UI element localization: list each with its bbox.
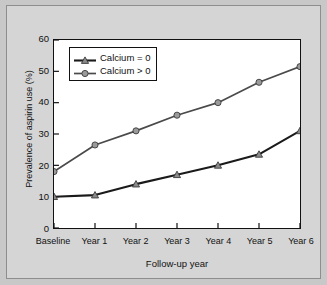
legend-item-1: Calcium = 0 (74, 51, 150, 64)
y-tick-label: 30 (27, 129, 49, 139)
x-tick-label: Year 4 (205, 237, 231, 246)
x-tick-label: Baseline (36, 237, 71, 246)
y-tick-label: 40 (27, 97, 49, 107)
series-line (54, 131, 300, 197)
x-tick-label: Year 3 (164, 237, 190, 246)
chart-legend: Calcium = 0Calcium > 0 (69, 47, 157, 81)
x-tick-label: Year 1 (81, 237, 107, 246)
legend-label: Calcium = 0 (100, 53, 150, 63)
y-tick-label: 60 (27, 34, 49, 44)
data-point-marker (296, 127, 300, 133)
data-point-marker (54, 169, 57, 175)
figure-frame: Prevalence of aspirin use (%) 0102030405… (6, 5, 321, 279)
data-point-marker (92, 142, 98, 148)
data-point-marker (174, 112, 180, 118)
data-point-marker (82, 70, 88, 76)
x-axis-title: Follow-up year (53, 258, 301, 269)
legend-item-2: Calcium > 0 (74, 64, 150, 77)
data-point-marker (215, 100, 221, 106)
y-tick-label: 10 (27, 192, 49, 202)
data-point-marker (133, 128, 139, 134)
y-tick-label: 50 (27, 66, 49, 76)
y-tick-label: 0 (27, 224, 49, 234)
line-chart: Prevalence of aspirin use (%) 0102030405… (7, 6, 320, 278)
x-tick-label: Year 2 (123, 237, 149, 246)
legend-circle-marker-icon (74, 65, 96, 76)
data-point-marker (297, 64, 300, 70)
legend-triangle-marker-icon (74, 52, 96, 63)
legend-label: Calcium > 0 (100, 66, 150, 76)
series-1 (54, 127, 300, 199)
y-tick-label: 20 (27, 161, 49, 171)
series-line (54, 67, 300, 172)
x-axis-tick-labels: BaselineYear 1Year 2Year 3Year 4Year 5Ye… (7, 237, 320, 253)
x-tick-label: Year 6 (288, 237, 314, 246)
x-tick-label: Year 5 (247, 237, 273, 246)
data-point-marker (256, 79, 262, 85)
